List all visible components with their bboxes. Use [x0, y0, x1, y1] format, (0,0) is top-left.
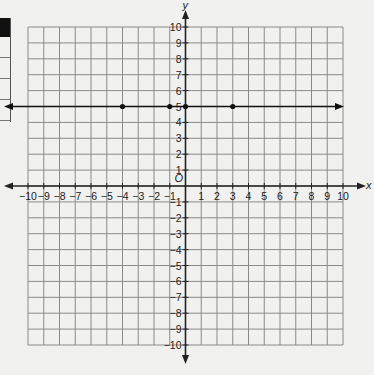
svg-text:−9: −9	[170, 323, 182, 335]
svg-text:−7: −7	[170, 291, 182, 303]
svg-text:8: 8	[309, 190, 315, 202]
svg-text:2: 2	[176, 148, 182, 160]
svg-text:−7: −7	[69, 190, 81, 202]
svg-text:6: 6	[277, 190, 283, 202]
svg-text:3: 3	[176, 132, 182, 144]
svg-text:−4: −4	[170, 244, 182, 256]
origin-label: O	[175, 172, 184, 184]
svg-text:−2: −2	[148, 190, 160, 202]
svg-text:−8: −8	[170, 307, 182, 319]
svg-text:−9: −9	[38, 190, 50, 202]
svg-text:−6: −6	[170, 275, 182, 287]
svg-text:−1: −1	[170, 196, 182, 208]
plotted-line	[4, 103, 344, 110]
data-point	[120, 104, 125, 109]
svg-text:9: 9	[176, 37, 182, 49]
x-axis-label: x	[365, 179, 372, 191]
svg-text:−3: −3	[170, 228, 182, 240]
svg-text:2: 2	[214, 190, 220, 202]
svg-text:−10: −10	[164, 339, 182, 351]
svg-text:7: 7	[293, 190, 299, 202]
svg-text:10: 10	[337, 190, 349, 202]
svg-text:1: 1	[198, 190, 204, 202]
coordinate-plane: −10−9−8−7−6−5−4−3−2−112345678910−10−9−8−…	[0, 0, 374, 375]
svg-text:−10: −10	[19, 190, 37, 202]
svg-text:9: 9	[324, 190, 330, 202]
svg-text:4: 4	[176, 116, 182, 128]
svg-text:−6: −6	[85, 190, 97, 202]
svg-text:5: 5	[261, 190, 267, 202]
svg-text:−3: −3	[132, 190, 144, 202]
svg-text:7: 7	[176, 69, 182, 81]
svg-text:−4: −4	[117, 190, 129, 202]
data-point	[167, 104, 172, 109]
svg-text:6: 6	[176, 85, 182, 97]
y-axis-label: y	[182, 0, 190, 11]
svg-text:3: 3	[230, 190, 236, 202]
svg-text:−5: −5	[101, 190, 113, 202]
svg-text:8: 8	[176, 53, 182, 65]
svg-text:10: 10	[170, 21, 182, 33]
data-point	[230, 104, 235, 109]
svg-text:−2: −2	[170, 212, 182, 224]
data-point	[183, 104, 188, 109]
svg-text:−8: −8	[54, 190, 66, 202]
svg-text:4: 4	[246, 190, 252, 202]
svg-text:−5: −5	[170, 260, 182, 272]
